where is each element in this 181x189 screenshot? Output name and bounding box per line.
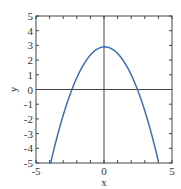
y-tick-label: 0 [28,84,34,96]
y-tick-label: 5 [28,10,34,22]
y-tick-label: 2 [28,54,34,66]
x-tick-label: 5 [169,165,175,177]
y-tick-label: 4 [28,25,34,37]
y-tick-label: 3 [28,39,34,51]
x-axis-label: x [101,176,107,188]
y-tick-label: -3 [24,128,34,140]
chart: -505543210-1-2-3-4-5 x y [0,0,181,189]
y-axis-label: y [7,86,19,92]
y-tick-label: -4 [24,142,34,154]
tick-labels: -505543210-1-2-3-4-5 [24,10,175,177]
y-tick-label: -1 [24,98,33,110]
y-tick-label: 1 [28,69,34,81]
y-tick-label: -5 [24,157,34,169]
y-tick-label: -2 [24,113,33,125]
